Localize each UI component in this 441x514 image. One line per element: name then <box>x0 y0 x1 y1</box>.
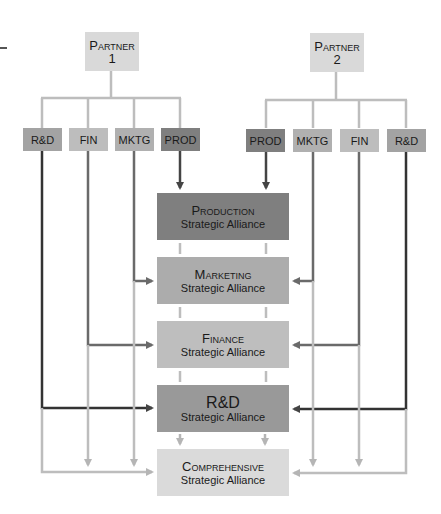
rd-alliance-title: R&D <box>206 394 240 411</box>
p1-dept-mktg: MKTG <box>115 128 154 151</box>
strategic-alliance-diagram: Partner 1 Partner 2 R&D FIN MKTG PROD PR… <box>0 0 441 514</box>
finance-alliance-subtitle: Strategic Alliance <box>181 346 265 359</box>
p1-dept-rd: R&D <box>23 128 62 151</box>
comprehensive-alliance-subtitle: Strategic Alliance <box>181 474 265 487</box>
production-alliance-title: Production <box>191 203 254 218</box>
rd-alliance-box: R&D Strategic Alliance <box>157 385 289 432</box>
p1-dept-fin: FIN <box>69 128 108 151</box>
production-alliance-box: Production Strategic Alliance <box>157 193 289 240</box>
finance-alliance-title: Finance <box>202 331 244 346</box>
partner-2-label: Partner <box>314 40 360 53</box>
partner-1-label: Partner <box>89 39 135 52</box>
production-alliance-subtitle: Strategic Alliance <box>181 218 265 231</box>
partner-1-box: Partner 1 <box>85 32 139 71</box>
rd-alliance-subtitle: Strategic Alliance <box>181 411 265 424</box>
partner-2-number: 2 <box>333 53 340 66</box>
partner-1-number: 1 <box>108 52 115 65</box>
p1-dept-prod: PROD <box>161 128 200 151</box>
comprehensive-alliance-box: Comprehensive Strategic Alliance <box>157 449 289 496</box>
marketing-alliance-title: Marketing <box>195 267 252 282</box>
finance-alliance-box: Finance Strategic Alliance <box>157 321 289 368</box>
p2-dept-mktg: MKTG <box>293 129 332 152</box>
comprehensive-alliance-title: Comprehensive <box>182 459 264 474</box>
p2-dept-prod: PROD <box>246 129 285 152</box>
marketing-alliance-subtitle: Strategic Alliance <box>181 282 265 295</box>
partner-2-box: Partner 2 <box>310 33 364 72</box>
p2-dept-rd: R&D <box>387 129 426 152</box>
marketing-alliance-box: Marketing Strategic Alliance <box>157 257 289 304</box>
p2-dept-fin: FIN <box>340 129 379 152</box>
